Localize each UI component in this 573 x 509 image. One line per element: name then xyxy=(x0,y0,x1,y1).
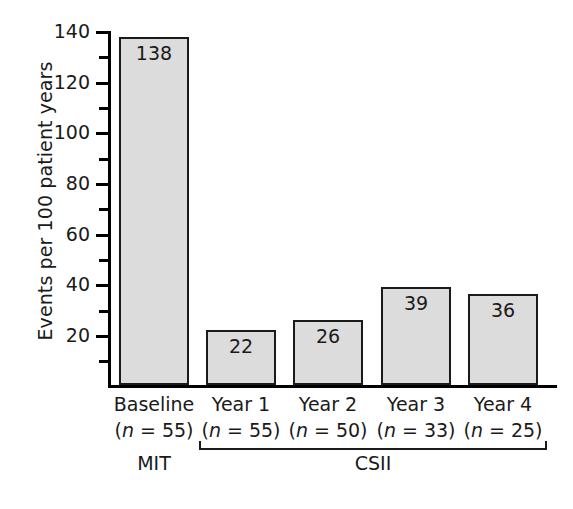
y-tick-minor-90 xyxy=(99,158,109,161)
group-bracket-csii xyxy=(199,441,547,450)
y-tick-140 xyxy=(96,31,109,34)
bar-value-baseline: 138 xyxy=(121,43,187,65)
bar-chart-figure: Events per 100 patient years 140 120 100 xyxy=(0,0,573,509)
y-tick-minor-50 xyxy=(99,259,109,262)
x-label-year-1: Year 1 (n = 55) xyxy=(191,392,291,443)
y-tick-label-60: 60 xyxy=(40,225,90,244)
x-label-year-2-name: Year 2 xyxy=(278,392,378,418)
y-tick-minor-30 xyxy=(99,310,109,313)
bar-year-3[interactable]: 39 xyxy=(381,287,451,385)
x-label-year-3-n: (n = 33) xyxy=(366,418,466,444)
y-tick-minor-130 xyxy=(99,56,109,59)
plot-area: 140 120 100 80 60 40 20 138 22 26 xyxy=(0,0,573,509)
y-tick-minor-110 xyxy=(99,107,109,110)
x-label-year-2-n: (n = 50) xyxy=(278,418,378,444)
y-tick-label-140: 140 xyxy=(40,22,90,41)
group-label-csii: CSII xyxy=(323,452,423,474)
y-tick-20 xyxy=(96,335,109,338)
y-tick-label-120: 120 xyxy=(40,73,90,92)
y-tick-label-40: 40 xyxy=(40,275,90,294)
x-label-year-3: Year 3 (n = 33) xyxy=(366,392,466,443)
y-tick-40 xyxy=(96,284,109,287)
bar-value-year-1: 22 xyxy=(208,336,274,358)
y-tick-label-20: 20 xyxy=(40,326,90,345)
x-label-year-4-n: (n = 25) xyxy=(453,418,553,444)
y-tick-80 xyxy=(96,183,109,186)
y-tick-label-100: 100 xyxy=(40,123,90,142)
y-tick-minor-70 xyxy=(99,208,109,211)
y-tick-minor-10 xyxy=(99,360,109,363)
bar-value-year-3: 39 xyxy=(383,293,449,315)
y-tick-60 xyxy=(96,234,109,237)
x-label-year-4-name: Year 4 xyxy=(453,392,553,418)
x-label-year-4: Year 4 (n = 25) xyxy=(453,392,553,443)
x-label-year-3-name: Year 3 xyxy=(366,392,466,418)
x-axis-line xyxy=(108,385,557,388)
bar-year-2[interactable]: 26 xyxy=(293,320,363,385)
y-tick-120 xyxy=(96,82,109,85)
bar-value-year-2: 26 xyxy=(295,326,361,348)
bar-year-1[interactable]: 22 xyxy=(206,330,276,385)
y-tick-100 xyxy=(96,132,109,135)
x-label-year-1-name: Year 1 xyxy=(191,392,291,418)
bar-value-year-4: 36 xyxy=(470,300,536,322)
x-label-year-1-n: (n = 55) xyxy=(191,418,291,444)
group-label-mit: MIT xyxy=(104,452,204,474)
y-tick-label-80: 80 xyxy=(40,174,90,193)
bar-year-4[interactable]: 36 xyxy=(468,294,538,385)
x-label-year-2: Year 2 (n = 50) xyxy=(278,392,378,443)
bar-baseline[interactable]: 138 xyxy=(119,37,189,385)
